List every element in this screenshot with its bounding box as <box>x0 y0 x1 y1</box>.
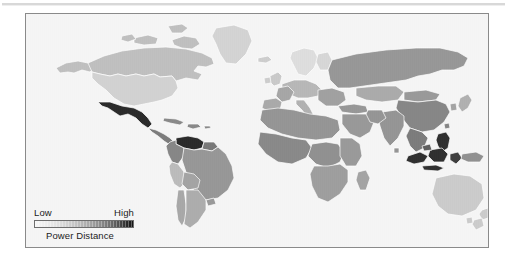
map-legend: Low High Power Distance <box>32 207 152 241</box>
legend-gradient-bar <box>34 220 134 228</box>
world-map-figure: Low High Power Distance <box>25 13 489 248</box>
figure-page: Low High Power Distance <box>0 0 514 263</box>
legend-title: Power Distance <box>46 230 152 241</box>
legend-low-label: Low <box>34 207 52 218</box>
legend-endpoint-labels: Low High <box>34 207 134 220</box>
map-canvas: Low High Power Distance <box>26 14 488 247</box>
legend-high-label: High <box>114 207 134 218</box>
page-top-rule-shadow <box>2 5 505 6</box>
legend-gradient-hatch <box>35 221 133 227</box>
